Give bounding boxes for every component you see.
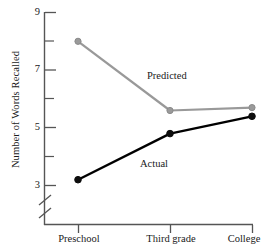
predicted-point-third-grade <box>167 107 173 113</box>
y-minor-ticks <box>45 41 54 157</box>
predicted-point-college <box>249 105 255 111</box>
actual-point-preschool <box>75 176 82 183</box>
series-label-actual: Actual <box>140 158 168 169</box>
actual-point-third-grade <box>167 130 174 137</box>
x-ticks <box>79 225 253 233</box>
x-tick-label-third-grade: Third grade <box>131 233 211 244</box>
series-label-predicted: Predicted <box>147 70 187 81</box>
predicted-point-preschool <box>75 38 81 44</box>
actual-line <box>78 116 252 179</box>
actual-point-college <box>249 113 256 120</box>
x-tick-label-preschool: Preschool <box>42 233 116 244</box>
x-tick-label-college: College <box>219 233 269 244</box>
series-actual <box>75 113 256 183</box>
